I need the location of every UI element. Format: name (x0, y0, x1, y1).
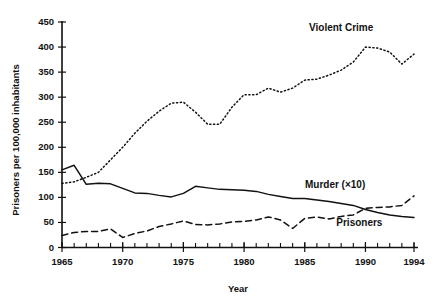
x-tick-label-1980: 1980 (233, 256, 254, 267)
series-line-violent-crime (62, 47, 414, 183)
x-axis-title: Year (228, 283, 248, 294)
series-label-murder-10: Murder (×10) (305, 179, 365, 190)
series-line-prisoners (62, 165, 414, 217)
x-tick-label-1990: 1990 (355, 256, 376, 267)
chart-figure: 050100150200250300350400450 196519701975… (0, 0, 438, 296)
series-label-violent-crime: Violent Crime (309, 22, 374, 33)
series-label-prisoners: Prisoners (336, 217, 383, 228)
y-axis-title: Prisoners per 100,000 inhabitants (10, 64, 21, 216)
data-series-group (62, 47, 414, 237)
y-axis-group: 050100150200250300350400450 (38, 16, 66, 253)
y-tick-label-350: 350 (38, 66, 54, 77)
y-tick-label-250: 250 (38, 116, 54, 127)
y-tick-label-300: 300 (38, 91, 54, 102)
y-tick-label-150: 150 (38, 166, 54, 177)
x-tick-label-1970: 1970 (112, 256, 133, 267)
y-tick-label-50: 50 (43, 216, 54, 227)
y-tick-label-0: 0 (49, 242, 54, 253)
y-tick-labels: 050100150200250300350400450 (38, 16, 54, 253)
x-tick-label-1994: 1994 (403, 256, 425, 267)
x-axis-group: 1965197019751980198519901994 (51, 242, 425, 267)
y-tick-label-400: 400 (38, 41, 54, 52)
x-tick-label-1985: 1985 (294, 256, 316, 267)
x-tick-labels: 1965197019751980198519901994 (51, 256, 425, 267)
x-tick-label-1975: 1975 (173, 256, 195, 267)
x-tick-label-1965: 1965 (51, 256, 73, 267)
series-annotation-group: Violent CrimePrisonersMurder (×10) (305, 22, 383, 228)
y-tick-label-200: 200 (38, 141, 54, 152)
line-chart: 050100150200250300350400450 196519701975… (0, 0, 438, 296)
y-tick-label-450: 450 (38, 16, 54, 27)
y-tick-label-100: 100 (38, 191, 54, 202)
